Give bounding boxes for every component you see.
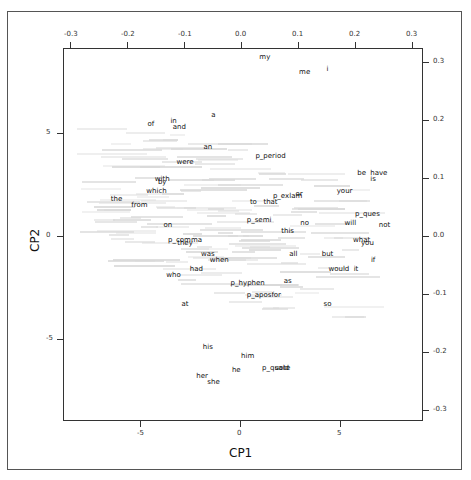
background-label — [295, 292, 319, 294]
background-label — [178, 274, 222, 276]
background-label — [111, 238, 134, 240]
y-axis-tick — [57, 133, 63, 134]
word-label: p_ques — [355, 210, 380, 217]
background-label — [156, 206, 175, 208]
word-label: had — [190, 265, 203, 272]
background-label — [109, 234, 129, 236]
word-label: would — [328, 265, 349, 272]
word-label: at — [181, 300, 188, 307]
right-axis-tick — [423, 410, 429, 411]
background-label — [300, 253, 320, 255]
background-label — [111, 143, 131, 145]
background-label — [316, 276, 380, 278]
right-axis-tick-label: -0.3 — [433, 405, 447, 413]
background-label — [249, 249, 280, 251]
x-axis-tick — [340, 421, 341, 427]
word-label: will — [345, 219, 357, 226]
background-label — [171, 148, 227, 150]
x-axis-tick — [140, 421, 141, 427]
top-axis-tick — [355, 42, 356, 48]
word-label: which — [146, 187, 166, 194]
right-axis-tick — [423, 62, 429, 63]
plot-area: mymeiaofinandanwerep_periodbehavewithbyi… — [63, 48, 423, 421]
background-label — [288, 173, 345, 175]
background-label — [342, 249, 359, 251]
background-label — [232, 251, 255, 253]
background-label — [178, 279, 196, 281]
background-label — [141, 226, 158, 228]
right-axis-tick-label: -0.1 — [433, 289, 447, 297]
background-label — [209, 178, 256, 180]
background-label — [345, 316, 365, 318]
background-label — [290, 225, 335, 227]
right-axis-tick — [423, 294, 429, 295]
x-axis-title: CP1 — [229, 446, 252, 460]
background-label — [177, 207, 196, 209]
right-axis-tick-label: 0.0 — [433, 231, 444, 239]
background-label — [200, 229, 264, 231]
background-label — [82, 211, 131, 213]
background-label — [311, 232, 369, 234]
right-axis-tick — [423, 236, 429, 237]
y-axis-tick — [57, 339, 63, 340]
right-axis-tick-label: -0.2 — [433, 347, 447, 355]
background-label — [195, 163, 235, 165]
word-label: i — [327, 65, 329, 72]
word-label: me — [299, 68, 310, 75]
top-axis-tick — [127, 42, 128, 48]
background-label — [241, 231, 306, 233]
background-label — [280, 271, 332, 273]
background-label — [207, 215, 226, 217]
background-label — [269, 178, 304, 180]
top-axis-tick — [184, 42, 185, 48]
y-axis-tick — [57, 236, 63, 237]
x-axis-tick — [240, 421, 241, 427]
word-label: my — [259, 54, 270, 61]
background-label — [339, 200, 367, 202]
word-label: said — [275, 364, 289, 371]
word-label: be — [357, 170, 366, 177]
right-axis-tick-label: 0.2 — [433, 115, 444, 123]
background-label — [125, 241, 155, 243]
background-label — [280, 286, 302, 288]
word-label: he — [232, 367, 241, 374]
word-label: by — [158, 178, 167, 185]
top-axis-tick-label: 0.3 — [406, 30, 417, 38]
background-label — [278, 237, 306, 239]
word-label: is — [370, 176, 376, 183]
background-label — [218, 184, 283, 186]
word-label: all — [289, 251, 297, 258]
background-label — [81, 188, 121, 190]
top-axis-tick-label: -0.3 — [64, 30, 78, 38]
word-label: from — [131, 202, 147, 209]
background-label — [198, 159, 237, 161]
x-axis-tick-label: 5 — [337, 429, 341, 437]
word-label: p_period — [255, 152, 285, 159]
background-label — [214, 292, 244, 294]
background-label — [292, 208, 345, 210]
right-axis-tick-label: 0.1 — [433, 173, 444, 181]
word-label: this — [281, 228, 294, 235]
background-label — [108, 260, 164, 262]
word-label: you — [361, 239, 374, 246]
word-label: of — [147, 120, 154, 127]
top-axis-tick — [70, 42, 71, 48]
word-label: it — [354, 265, 359, 272]
word-label: and — [173, 123, 186, 130]
background-label — [258, 172, 285, 174]
word-label: so — [324, 300, 332, 307]
background-label — [229, 301, 262, 303]
background-label — [183, 233, 202, 235]
word-label: she — [207, 379, 219, 386]
background-label — [114, 265, 175, 267]
word-label: an — [203, 144, 212, 151]
background-label — [82, 181, 136, 183]
background-label — [241, 239, 281, 241]
word-label: him — [241, 352, 254, 359]
background-label — [218, 143, 268, 145]
y-axis-tick-label: 5 — [46, 128, 50, 136]
background-label — [77, 153, 147, 155]
y-axis-tick-label: -5 — [46, 334, 53, 342]
background-label — [97, 230, 156, 232]
word-label: when — [210, 257, 229, 264]
